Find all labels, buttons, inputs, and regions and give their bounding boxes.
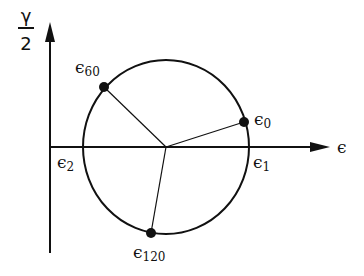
label-eps60: ϵ60 [75,57,100,79]
label-eps0-subscript: 0 [264,117,272,131]
label-eps1-subscript: 1 [263,160,271,174]
mohr-circle-diagram: γ 2 ϵ ϵ0 ϵ60 ϵ120 ϵ1 ϵ2 [0,0,364,276]
label-eps120: ϵ120 [133,242,165,264]
label-eps1-symbol: ϵ [253,152,263,172]
label-eps0-symbol: ϵ [254,109,264,129]
radius-eps120 [151,147,166,233]
y-axis-label-denominator: 2 [20,33,31,54]
point-eps0 [239,117,249,127]
label-eps60-subscript: 60 [85,65,100,79]
label-eps120-symbol: ϵ [133,242,143,262]
label-eps2-symbol: ϵ [57,152,67,172]
x-axis-label: ϵ [337,137,347,157]
label-eps2-subscript: 2 [67,160,75,174]
label-eps2: ϵ2 [57,152,74,174]
x-axis [50,142,330,152]
label-eps1: ϵ1 [253,152,270,174]
y-axis-arrowhead-icon [45,22,55,42]
y-axis [45,22,55,253]
label-eps60-symbol: ϵ [75,57,85,77]
x-axis-arrowhead-icon [310,142,330,152]
y-axis-label: γ 2 [18,5,34,54]
point-eps120 [146,228,156,238]
point-eps60 [99,82,109,92]
radius-eps60 [104,87,166,147]
label-eps0: ϵ0 [254,109,271,131]
radius-eps0 [166,122,244,147]
y-axis-label-numerator: γ [21,5,32,26]
label-eps120-subscript: 120 [143,250,166,264]
